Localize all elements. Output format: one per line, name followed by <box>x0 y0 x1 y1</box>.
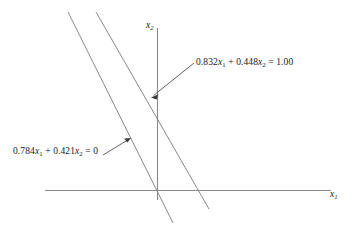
var-1-subscript: 1 <box>222 61 226 68</box>
leader-line-nonhomogeneous <box>154 63 195 96</box>
coef-1: 0.832 <box>196 57 218 67</box>
x2-axis-label-subscript: 2 <box>150 24 153 31</box>
equals-operator: = <box>83 146 93 156</box>
plus-operator: + <box>43 146 53 156</box>
var-1-subscript: 1 <box>39 150 43 157</box>
leader-line-homogeneous <box>103 140 129 156</box>
plus-operator: + <box>226 57 236 67</box>
equation-label-homogeneous: 0.784x1 + 0.421x2 = 0 <box>13 146 98 156</box>
x1-axis-label-subscript: 1 <box>334 193 337 200</box>
diagram-canvas <box>0 0 353 231</box>
x2-axis-label: x2 <box>146 20 154 30</box>
coef-2: 0.448 <box>236 57 258 67</box>
line-nonhomogeneous-graph <box>96 12 209 209</box>
var-2-subscript: 2 <box>262 61 266 68</box>
coef-2: 0.421 <box>53 146 75 156</box>
rhs-value: 0 <box>93 146 98 156</box>
linear-equations-diagram: 0.832x1 + 0.448x2 = 1.00 0.784x1 + 0.421… <box>0 0 353 231</box>
rhs-value: 1.00 <box>276 57 293 67</box>
coef-1: 0.784 <box>13 146 35 156</box>
var-2-subscript: 2 <box>79 150 83 157</box>
equals-operator: = <box>266 57 276 67</box>
equation-label-nonhomogeneous: 0.832x1 + 0.448x2 = 1.00 <box>196 57 293 67</box>
x1-axis-label: x1 <box>330 189 338 199</box>
